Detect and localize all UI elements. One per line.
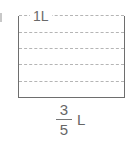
dashed-division-line [19,48,124,49]
dashed-division-line [19,81,124,82]
cropped-edge-mark [0,13,2,22]
fraction-label: 3 5 [56,102,72,138]
fraction-denominator: 5 [56,122,72,138]
unit-label: L [77,112,85,127]
fraction-numerator: 3 [56,102,72,118]
fraction-bar [56,119,72,120]
dashed-division-line [19,64,124,65]
capacity-label: 1L [30,9,52,23]
container-outline [18,16,125,98]
dashed-division-line [19,32,124,33]
